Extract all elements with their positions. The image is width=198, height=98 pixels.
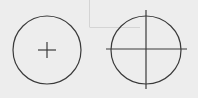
right-circle-group bbox=[106, 10, 187, 89]
diagram-canvas bbox=[0, 0, 198, 98]
background-guides bbox=[90, 0, 141, 28]
diagram-svg bbox=[0, 0, 198, 98]
left-circle-group bbox=[13, 16, 81, 84]
